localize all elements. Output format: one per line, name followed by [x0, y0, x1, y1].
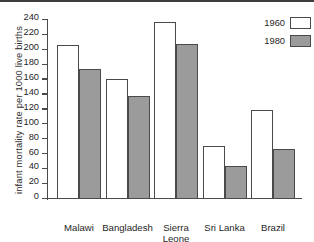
- y-axis-tick-label: 120: [23, 102, 39, 112]
- bar-1980: [79, 69, 101, 199]
- bar-1960: [57, 45, 79, 199]
- y-axis-tick-label: 80: [29, 132, 39, 142]
- white-swatch: [290, 17, 311, 29]
- y-axis-tick-label: 140: [23, 87, 39, 97]
- bar-1960: [203, 146, 225, 199]
- top-rule-divider: [0, 0, 314, 2]
- bar-1960: [154, 22, 176, 199]
- y-axis-tick-label: 40: [29, 161, 39, 171]
- bar-1980: [176, 44, 198, 199]
- bar-1980: [273, 149, 295, 199]
- bar-1980: [128, 96, 150, 199]
- y-axis-tick-label: 220: [23, 27, 39, 37]
- bar-group: [57, 20, 101, 199]
- legend-label: 1960: [264, 18, 285, 28]
- y-axis-tick-label: 100: [23, 117, 39, 127]
- bar-group: [154, 20, 198, 199]
- category-label: Brazil: [237, 222, 309, 233]
- chart-legend: 19601980: [253, 15, 311, 51]
- infant-mortality-bar-chart: infant mortality rate per 1000 live birt…: [0, 0, 314, 242]
- bar-1980: [225, 166, 247, 199]
- gray-swatch: [290, 35, 311, 47]
- bar-group: [106, 20, 150, 199]
- y-axis-tick-label: 20: [29, 176, 39, 186]
- bar-group: [203, 20, 247, 199]
- y-axis-tick-label: 160: [23, 72, 39, 82]
- bar-1960: [106, 79, 128, 199]
- legend-item: 1960: [253, 15, 311, 30]
- y-axis-tick-label: 0: [34, 191, 39, 201]
- legend-label: 1980: [264, 36, 285, 46]
- y-axis-tick-label: 180: [23, 57, 39, 67]
- y-axis-tick-label: 240: [23, 12, 39, 22]
- bar-1960: [251, 110, 273, 199]
- y-axis-tick-label: 200: [23, 42, 39, 52]
- y-axis-tick-label: 60: [29, 147, 39, 157]
- legend-item: 1980: [253, 33, 311, 48]
